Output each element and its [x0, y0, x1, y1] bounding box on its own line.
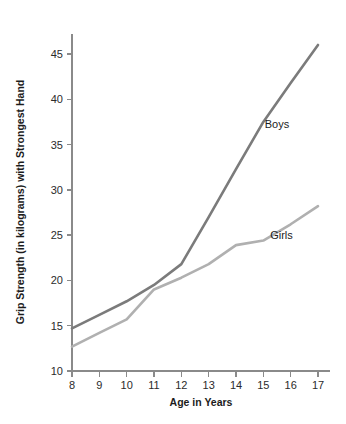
y-tick-label: 20	[51, 274, 63, 286]
y-tick-label: 15	[51, 320, 63, 332]
x-tick-label: 12	[175, 379, 187, 391]
x-tick-label: 17	[312, 379, 324, 391]
chart-canvas: 1015202530354045 891011121314151617 Boys…	[0, 0, 346, 424]
data-series-group	[72, 45, 318, 347]
series-line-girls	[72, 206, 318, 346]
x-tick-label-group: 891011121314151617	[69, 379, 324, 391]
y-tick-label-group: 1015202530354045	[51, 48, 63, 377]
y-axis-group: 1015202530354045	[51, 34, 72, 377]
x-tick-label: 14	[230, 379, 242, 391]
y-tick-label: 30	[51, 184, 63, 196]
x-tick-label: 11	[148, 379, 159, 391]
series-label-boys: Boys	[265, 118, 290, 130]
series-annotation-group: BoysGirls	[265, 118, 294, 240]
x-tick-label: 10	[121, 379, 133, 391]
x-tick-label: 9	[96, 379, 102, 391]
y-tick-label: 35	[51, 139, 63, 151]
x-tick-label: 16	[285, 379, 297, 391]
x-tick-label: 15	[257, 379, 269, 391]
y-tick-label: 10	[51, 365, 63, 377]
grip-strength-line-chart: 1015202530354045 891011121314151617 Boys…	[0, 0, 346, 424]
series-line-boys	[72, 45, 318, 328]
y-tick-label: 25	[51, 229, 63, 241]
y-tick-label: 40	[51, 93, 63, 105]
y-tick-label: 45	[51, 48, 63, 60]
x-tick-label: 8	[69, 379, 75, 391]
x-tick-marks	[72, 371, 318, 377]
series-label-girls: Girls	[270, 229, 293, 241]
x-axis-group: 891011121314151617	[69, 371, 330, 391]
x-axis-title: Age in Years	[170, 396, 233, 408]
x-tick-label: 13	[203, 379, 215, 391]
y-axis-title: Grip Strength (in kilograms) with Strong…	[14, 80, 26, 324]
